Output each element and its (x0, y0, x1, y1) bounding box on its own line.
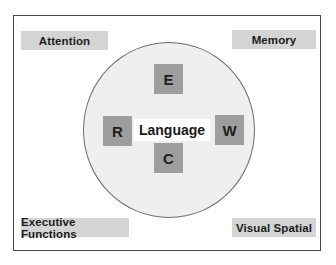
node-e: E (154, 64, 183, 94)
executive-functions-label: Executive Functions (21, 218, 129, 237)
node-c: C (154, 143, 183, 173)
visual-spatial-label: Visual Spatial (232, 218, 316, 237)
memory-label: Memory (232, 30, 316, 49)
node-r: R (103, 116, 132, 146)
language-center-label: Language (134, 119, 210, 141)
attention-label: Attention (21, 31, 108, 50)
node-w: W (215, 115, 244, 145)
